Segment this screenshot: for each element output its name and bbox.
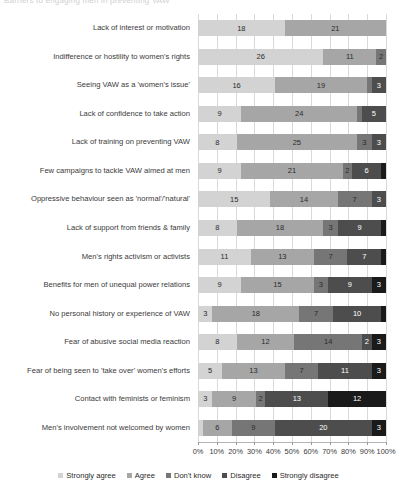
bar-segment: 8 — [198, 134, 237, 150]
x-axis-tick-label: 60% — [303, 447, 318, 456]
bar-segment: 3 — [314, 277, 328, 293]
bar-segment: 12 — [237, 334, 295, 350]
x-axis-tick-label: 20% — [228, 447, 243, 456]
bar-segment: 5 — [362, 106, 386, 122]
legend-item[interactable]: Strongly disagree — [272, 471, 339, 480]
bar-segment: 15 — [198, 191, 270, 207]
bar-segment-value: 3 — [377, 367, 381, 375]
category-label: Lack of interest or motivation — [93, 24, 190, 32]
table-row: 5137113 — [198, 363, 386, 379]
bar-segment-value: 3 — [377, 196, 381, 204]
legend-label: Disagree — [230, 471, 260, 480]
bar-segment: 6 — [352, 163, 381, 179]
bar-segment: 2 — [343, 163, 353, 179]
x-axis-tick — [217, 442, 218, 445]
table-row: 26112 — [198, 49, 386, 65]
bar-segment: 18 — [237, 220, 324, 236]
bar-segment: 9 — [198, 277, 241, 293]
bar-segment: 16 — [198, 77, 275, 93]
bar-segment: 3 — [198, 306, 212, 322]
bar-segment: 3 — [372, 363, 386, 379]
x-axis-tick — [273, 442, 274, 445]
bar-segment-value: 2 — [259, 395, 263, 403]
x-axis-tick-label: 10% — [209, 447, 224, 456]
x-axis-tick-label: 0% — [193, 447, 204, 456]
bar-segment-value: 21 — [331, 25, 339, 33]
bar-segment: 9 — [212, 391, 255, 407]
table-row: 1821 — [198, 20, 386, 36]
x-axis-tick-label: 90% — [360, 447, 375, 456]
category-label: Men's rights activism or activists — [82, 253, 190, 261]
category-label: Benefits for men of unequal power relati… — [44, 281, 190, 289]
bar-segment: 9 — [338, 220, 381, 236]
category-axis-labels: Lack of interest or motivationIndifferen… — [0, 14, 194, 442]
bar-segment: 3 — [372, 134, 386, 150]
bar-segment-value: 11 — [221, 253, 229, 261]
legend-swatch-icon — [127, 473, 132, 478]
bar-segment-value: 3 — [377, 281, 381, 289]
bar-segment: 3 — [372, 334, 386, 350]
bar-segment-value: 3 — [377, 82, 381, 90]
bar-segment-value: 21 — [288, 167, 296, 175]
gridline — [386, 14, 387, 442]
bar-segment: 9 — [198, 163, 241, 179]
x-axis-tick — [254, 442, 255, 445]
bar-segment-value: 19 — [317, 82, 325, 90]
x-axis-tick — [386, 442, 387, 445]
bar-segment-value: 3 — [377, 338, 381, 346]
category-label: Fear of abusive social media reaction — [64, 338, 190, 346]
bar-segment-value: 5 — [372, 110, 376, 118]
bar-segment: 26 — [198, 49, 323, 65]
legend-label: Don't know — [174, 471, 211, 480]
bar-segment: 18 — [198, 20, 285, 36]
bar-segment: 9 — [198, 106, 241, 122]
stacked-bar-chart: Barriers to engaging men in preventing V… — [0, 0, 397, 487]
bar-segment: 2 — [376, 49, 386, 65]
bar-segment: 11 — [198, 249, 251, 265]
category-label: Indifference or hostility to women's rig… — [53, 53, 190, 61]
x-axis-tick-label: 80% — [341, 447, 356, 456]
table-row: 82533 — [198, 134, 386, 150]
legend-item[interactable]: Disagree — [222, 471, 260, 480]
bar-segment-value: 7 — [300, 367, 304, 375]
bar-segment-value: 7 — [328, 253, 332, 261]
table-row: 151473 — [198, 191, 386, 207]
legend-label: Strongly disagree — [280, 471, 339, 480]
legend-swatch-icon — [166, 473, 171, 478]
bar-segment-value: 3 — [203, 310, 207, 318]
category-label: Few campaigns to tackle VAW aimed at men — [40, 167, 190, 175]
bar-segment: 3 — [372, 77, 386, 93]
bar-segment-value: 8 — [215, 338, 219, 346]
category-label: Lack of training on preventing VAW — [72, 138, 190, 146]
bar-segment: 7 — [314, 249, 348, 265]
table-row: 8121423 — [198, 334, 386, 350]
legend-item[interactable]: Strongly agree — [58, 471, 115, 480]
bar-segment: 20 — [275, 420, 371, 436]
x-axis-tick-label: 40% — [266, 447, 281, 456]
bar-segment: 7 — [285, 363, 319, 379]
bar-segment-value: 20 — [319, 424, 327, 432]
legend-label: Strongly agree — [66, 471, 115, 480]
bar-segment-value: 10 — [353, 310, 361, 318]
table-row: 111377 — [198, 249, 386, 265]
bar-segment: 10 — [333, 306, 381, 322]
category-label: Men's involvement not welcomed by women — [42, 424, 190, 432]
category-label: Oppressive behaviour seen as 'normal'/'n… — [31, 195, 190, 203]
bar-segment-value: 14 — [300, 196, 308, 204]
bar-segment — [381, 220, 386, 236]
bar-segment-value: 2 — [365, 338, 369, 346]
bar-segment: 9 — [232, 420, 275, 436]
legend-item[interactable]: Don't know — [166, 471, 211, 480]
bar-segment: 19 — [275, 77, 367, 93]
bar-segment: 3 — [372, 191, 386, 207]
x-axis-tick — [236, 442, 237, 445]
legend-item[interactable]: Agree — [127, 471, 155, 480]
bar-segment: 15 — [241, 277, 313, 293]
bar-segment-value: 14 — [324, 338, 332, 346]
bar-segment: 3 — [357, 134, 371, 150]
bar-segment-value: 25 — [293, 139, 301, 147]
x-axis-tick-label: 30% — [247, 447, 262, 456]
bar-segment-value: 18 — [252, 310, 260, 318]
bar-segment: 13 — [251, 249, 314, 265]
bar-segment: 13 — [265, 391, 328, 407]
